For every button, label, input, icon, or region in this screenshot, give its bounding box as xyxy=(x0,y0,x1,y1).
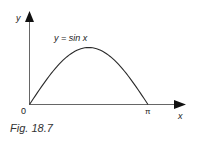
y-axis-label: y xyxy=(16,14,21,23)
curve-label: y = sin x xyxy=(54,34,87,43)
pi-tick-label: π xyxy=(145,108,151,116)
x-axis-label: x xyxy=(178,112,183,121)
sine-curve xyxy=(30,48,149,105)
origin-tick-label: 0 xyxy=(21,107,26,116)
y-axis-arrow-icon xyxy=(25,11,34,22)
x-axis-arrow-icon xyxy=(174,100,186,109)
figure-caption: Fig. 18.7 xyxy=(10,122,53,134)
